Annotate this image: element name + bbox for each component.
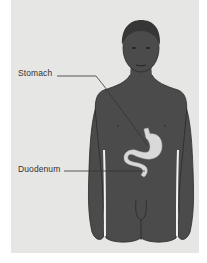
left-eye	[132, 47, 136, 49]
right-nipple	[164, 125, 166, 127]
right-eye	[146, 47, 150, 49]
left-nipple	[117, 125, 119, 127]
anatomy-figure	[0, 0, 207, 263]
torso	[95, 75, 186, 242]
duodenum-label: Duodenum	[18, 164, 60, 174]
stomach-label: Stomach	[18, 68, 52, 78]
